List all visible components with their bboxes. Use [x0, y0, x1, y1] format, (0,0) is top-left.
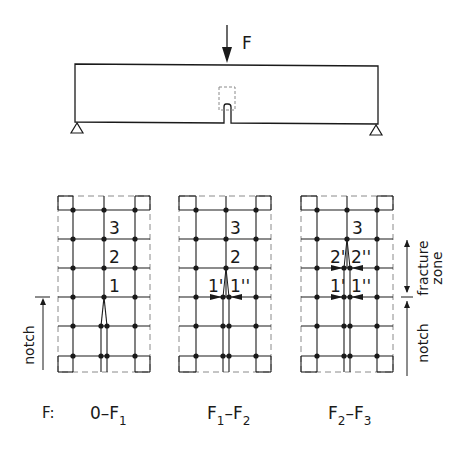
node-point	[374, 353, 379, 358]
zone-label: zone	[429, 251, 445, 284]
beam-group: F	[71, 25, 382, 135]
node-point	[344, 207, 349, 212]
node-point	[374, 207, 379, 212]
node-label: 1''	[351, 276, 371, 296]
node-label: 2	[230, 247, 241, 267]
node-point	[314, 294, 319, 299]
arrow-down-icon	[404, 286, 410, 293]
node-label: 1'	[208, 276, 224, 296]
node-point	[193, 207, 198, 212]
node-point	[223, 207, 228, 212]
node-point	[223, 265, 228, 270]
node-point	[226, 323, 231, 328]
node-label: 3	[109, 218, 120, 238]
node-point	[314, 353, 319, 358]
node-point	[253, 236, 258, 241]
node-point	[347, 353, 352, 358]
fracture-region-box	[219, 87, 235, 110]
node-label: 2'	[330, 247, 346, 267]
node-point	[70, 323, 75, 328]
node-point	[98, 353, 103, 358]
node-point	[341, 323, 346, 328]
node-label: 1'	[330, 276, 346, 296]
load-arrow-head-icon	[222, 47, 232, 63]
node-point	[253, 323, 258, 328]
grid-stage-2: 321'1''	[179, 196, 271, 372]
left-notch-dimension: notch	[21, 297, 50, 370]
node-point	[341, 353, 346, 358]
node-point	[98, 323, 103, 328]
node-point	[132, 265, 137, 270]
node-point	[223, 236, 228, 241]
node-point	[344, 236, 349, 241]
node-label: 1	[109, 276, 120, 296]
node-point	[374, 265, 379, 270]
node-point	[253, 294, 258, 299]
stage-range-label-1: 0–F1	[90, 405, 127, 422]
node-label: 3	[230, 218, 241, 238]
node-point	[374, 323, 379, 328]
arrow-up-icon	[404, 240, 410, 247]
node-point	[314, 236, 319, 241]
node-point	[314, 323, 319, 328]
fracture-diagram: F 321321'1''32'2''1'1'' notch fracture z…	[0, 0, 469, 452]
node-point	[70, 207, 75, 212]
node-point	[193, 236, 198, 241]
node-point	[101, 236, 106, 241]
right-dimension: fracture zone notch	[401, 240, 445, 376]
right-notch-label: notch	[415, 323, 431, 363]
node-point	[220, 323, 225, 328]
node-point	[253, 207, 258, 212]
left-notch-label: notch	[21, 325, 37, 365]
node-point	[253, 265, 258, 270]
beam-outline	[75, 64, 378, 124]
node-point	[104, 323, 109, 328]
load-label: F	[242, 33, 252, 53]
stage-range-label-2: F1–F2	[207, 405, 250, 422]
node-point	[70, 294, 75, 299]
node-point	[314, 207, 319, 212]
node-point	[374, 294, 379, 299]
node-point	[220, 353, 225, 358]
stage-grids: 321321'1''32'2''1'1''	[58, 196, 393, 372]
node-label: 2''	[351, 247, 371, 267]
node-point	[132, 353, 137, 358]
node-point	[101, 207, 106, 212]
grid-stage-3: 32'2''1'1''	[301, 196, 393, 372]
node-point	[132, 207, 137, 212]
node-point	[132, 323, 137, 328]
node-label: 1''	[230, 276, 250, 296]
node-point	[193, 294, 198, 299]
node-point	[226, 353, 231, 358]
node-point	[193, 353, 198, 358]
node-point	[314, 265, 319, 270]
support-left-icon	[71, 123, 83, 133]
node-point	[70, 265, 75, 270]
node-label: 3	[352, 218, 363, 238]
crack-line	[104, 297, 107, 326]
crack-line	[101, 297, 104, 326]
node-point	[70, 236, 75, 241]
arrow-up-icon	[40, 298, 46, 305]
node-point	[104, 353, 109, 358]
support-right-icon	[370, 125, 382, 135]
node-point	[70, 353, 75, 358]
force-prefix-label: F:	[42, 406, 55, 421]
node-point	[193, 323, 198, 328]
node-point	[132, 236, 137, 241]
grid-border	[179, 196, 271, 372]
stage-range-label-3: F2–F3	[328, 405, 371, 422]
node-point	[253, 353, 258, 358]
node-point	[101, 265, 106, 270]
grid-stage-1: 321	[58, 196, 150, 372]
node-point	[132, 294, 137, 299]
node-point	[101, 294, 106, 299]
node-label: 2	[109, 247, 120, 267]
node-point	[193, 265, 198, 270]
node-point	[374, 236, 379, 241]
node-point	[347, 323, 352, 328]
